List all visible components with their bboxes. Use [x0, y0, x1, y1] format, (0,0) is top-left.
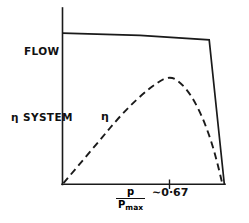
fraction-numerator: p: [125, 187, 136, 198]
fraction-denominator: Pmax: [116, 199, 145, 210]
flow-curve: [63, 33, 225, 184]
x-axis-tick-value: ∼0·67: [152, 186, 188, 199]
eta-system-label: η SYSTEM: [11, 111, 73, 123]
x-axis-fraction-label: p Pmax: [116, 187, 145, 210]
eta-system-curve: [64, 78, 223, 183]
fraction-denominator-subscript: max: [125, 203, 143, 212]
x-axis-label-group: p Pmax ∼0·67: [116, 187, 188, 210]
flow-label: FLOW: [24, 45, 60, 57]
figure-container: FLOW η SYSTEM η p Pmax ∼0·67: [0, 0, 249, 223]
eta-curve-label: η: [101, 110, 109, 123]
